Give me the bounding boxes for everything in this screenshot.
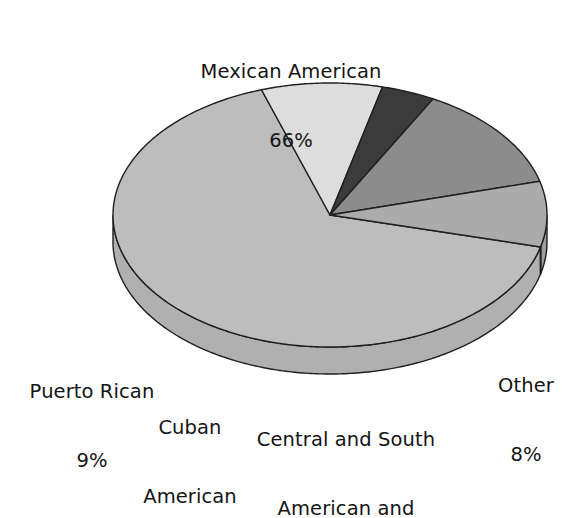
pie-label-cuban-american: Cuban American 4%	[120, 370, 260, 518]
pie-label-other-name: Other	[480, 374, 572, 397]
pie-label-central-south-american: Central and South American and the Carib…	[246, 382, 446, 518]
pie-label-other: Other 8%	[480, 328, 572, 512]
pie-label-central-south-american-name-line2: American and	[246, 497, 446, 518]
pie-chart: Mexican American 66% Puerto Rican 9% Cub…	[0, 0, 577, 518]
pie-label-mexican-american-name: Mexican American	[171, 60, 411, 83]
pie-label-central-south-american-name-line1: Central and South	[246, 428, 446, 451]
pie-label-mexican-american-value: 66%	[171, 129, 411, 152]
pie-label-cuban-american-name-line2: American	[120, 485, 260, 508]
pie-label-mexican-american: Mexican American 66%	[171, 14, 411, 198]
pie-label-other-value: 8%	[480, 443, 572, 466]
pie-label-cuban-american-name-line1: Cuban	[120, 416, 260, 439]
